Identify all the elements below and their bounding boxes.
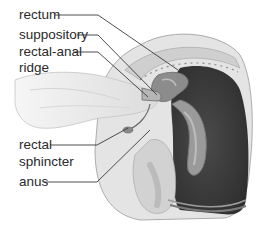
label-suppository: suppository [19, 27, 88, 43]
label-rectal-anal-ridge-line1: rectal-anal [19, 44, 82, 60]
label-anus: anus [19, 174, 48, 190]
label-rectum: rectum [19, 7, 60, 23]
label-rectal-sphincter-line1: rectal [19, 137, 52, 153]
anatomy-diagram: rectum suppository rectal-anal ridge rec… [0, 0, 271, 236]
label-rectal-sphincter-line2: sphincter [19, 154, 74, 170]
label-rectal-anal-ridge-line2: ridge [19, 60, 49, 76]
